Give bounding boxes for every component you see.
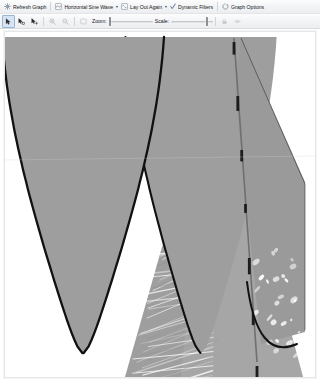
refresh-graph-button[interactable]: Refresh Graph — [2, 1, 48, 12]
zoom-slider[interactable] — [109, 16, 153, 27]
gear-icon — [222, 3, 229, 10]
scale-slider-thumb[interactable] — [206, 17, 208, 26]
graph-options-button[interactable]: Graph Options — [220, 1, 266, 12]
cursor-arrow-plus-icon — [31, 18, 38, 25]
graph-canvas-container[interactable] — [4, 31, 316, 378]
vertex-marker — [244, 204, 247, 213]
vertex-marker — [256, 366, 259, 377]
scale-label: Scale: — [155, 18, 169, 24]
vertex-marker — [248, 258, 251, 274]
refresh-graph-icon — [4, 3, 11, 10]
zoom-label: Zoom: — [92, 18, 107, 24]
zoom-out-tool-button[interactable] — [59, 15, 72, 28]
vertex-marker — [240, 150, 243, 161]
lock-icon — [221, 18, 228, 25]
cursor-arrow-icon — [5, 18, 12, 25]
graph-options-label: Graph Options — [231, 3, 264, 9]
layout-selector[interactable]: Horizontal Sine Wave — [53, 1, 115, 12]
lay-out-again-button[interactable]: Lay Out Again — [119, 1, 164, 12]
show-vertices-button[interactable] — [231, 15, 244, 28]
layout-icon — [55, 3, 62, 10]
vertex-marker — [236, 96, 239, 111]
dynamic-filters-label: Dynamic Filters — [178, 3, 213, 9]
magnifier-plus-icon — [49, 18, 56, 25]
toolbar-separator-2 — [217, 2, 218, 11]
toolbar-separator — [50, 2, 51, 11]
lay-out-again-label: Lay Out Again — [130, 3, 162, 9]
graph-toolbar-primary: Refresh Graph Horizontal Sine Wave — [0, 0, 320, 14]
layout-selector-label: Horizontal Sine Wave — [64, 3, 113, 9]
toolbar-separator-4 — [74, 17, 75, 26]
zoom-slider-track — [109, 21, 153, 23]
dynamic-filters-button[interactable]: Dynamic Filters — [168, 1, 215, 12]
check-icon — [170, 3, 176, 10]
fit-to-window-tool-button[interactable] — [77, 15, 90, 28]
pan-select-tool-button[interactable] — [15, 15, 28, 28]
zoom-in-tool-button[interactable] — [46, 15, 59, 28]
chevron-down-icon[interactable] — [116, 6, 118, 8]
select-tool-button[interactable] — [2, 15, 15, 28]
graph-toolbar-secondary: Zoom: Scale: — [0, 14, 320, 29]
lay-out-again-icon — [121, 3, 128, 10]
cursor-arrow-move-icon — [18, 18, 25, 25]
toolbar-separator-5 — [215, 17, 216, 26]
graph-pane-window: Refresh Graph Horizontal Sine Wave — [0, 0, 320, 392]
eye-icon — [234, 18, 241, 25]
refresh-graph-label: Refresh Graph — [13, 3, 46, 9]
zoom-slider-thumb[interactable] — [109, 17, 111, 26]
lock-vertices-button[interactable] — [218, 15, 231, 28]
fit-window-icon — [80, 18, 87, 25]
graph-canvas[interactable] — [5, 32, 315, 377]
magnifier-minus-icon — [62, 18, 69, 25]
scale-slider[interactable] — [171, 16, 213, 27]
vertex-marker — [233, 42, 236, 55]
chevron-down-icon-2[interactable] — [165, 6, 167, 8]
toolbar-separator-3 — [43, 17, 44, 26]
marquee-select-tool-button[interactable] — [28, 15, 41, 28]
